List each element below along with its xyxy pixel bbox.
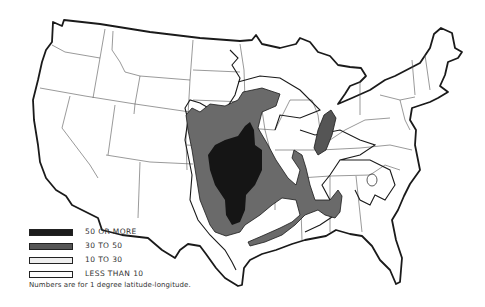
legend-item-less-10: LESS THAN 10 bbox=[29, 268, 229, 282]
legend-swatch bbox=[29, 257, 73, 264]
legend-item-30-50: 30 TO 50 bbox=[29, 240, 229, 254]
legend-swatch bbox=[29, 271, 73, 278]
legend-label: LESS THAN 10 bbox=[85, 268, 144, 279]
legend-item-10-30: 10 TO 30 bbox=[29, 254, 229, 268]
legend-label: 10 TO 30 bbox=[85, 254, 123, 265]
legend-item-50-plus: 50 OR MORE bbox=[29, 226, 229, 240]
legend-label: 50 OR MORE bbox=[85, 226, 137, 237]
map-footnote: Numbers are for 1 degree latitude-longit… bbox=[29, 281, 191, 289]
legend-swatch bbox=[29, 229, 73, 236]
legend-label: 30 TO 50 bbox=[85, 240, 123, 251]
legend-swatch bbox=[29, 243, 73, 250]
